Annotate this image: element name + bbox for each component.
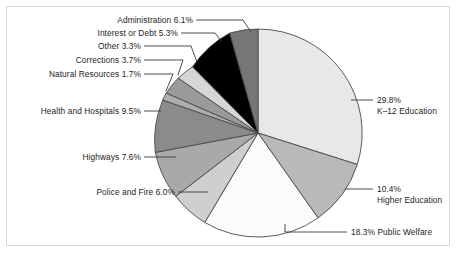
pie-slices: [155, 29, 363, 237]
label-natural-resources: Natural Resources 1.7%: [49, 69, 142, 79]
labels-right: 29.8% K–12 Education 10.4% Higher Educat…: [351, 95, 443, 237]
label-k12-education-percent: 29.8%: [377, 95, 402, 105]
label-other: Other 3.3%: [98, 41, 141, 51]
leader-line-natural-resources: [144, 74, 173, 91]
label-higher-education-name: Higher Education: [377, 195, 443, 205]
label-corrections: Corrections 3.7%: [76, 55, 142, 65]
leader-line-corrections: [144, 60, 183, 75]
label-public-welfare: 18.3% Public Welfare: [351, 227, 432, 237]
leader-line-interest-or-debt: [181, 33, 222, 42]
pie-chart-figure: Administration 6.1% Interest or Debt 5.3…: [0, 0, 458, 259]
label-k12-education-name: K–12 Education: [377, 106, 437, 116]
label-higher-education-percent: 10.4%: [377, 184, 402, 194]
label-police-and-fire: Police and Fire 6.0%: [96, 187, 175, 197]
label-administration: Administration 6.1%: [117, 15, 193, 25]
label-interest-or-debt: Interest or Debt 5.3%: [98, 28, 179, 38]
chart-canvas: Administration 6.1% Interest or Debt 5.3…: [0, 0, 458, 259]
pie-chart-svg: Administration 6.1% Interest or Debt 5.3…: [0, 0, 458, 259]
label-health-and-hospitals: Health and Hospitals 9.5%: [41, 106, 142, 116]
label-highways: Highways 7.6%: [83, 152, 142, 162]
